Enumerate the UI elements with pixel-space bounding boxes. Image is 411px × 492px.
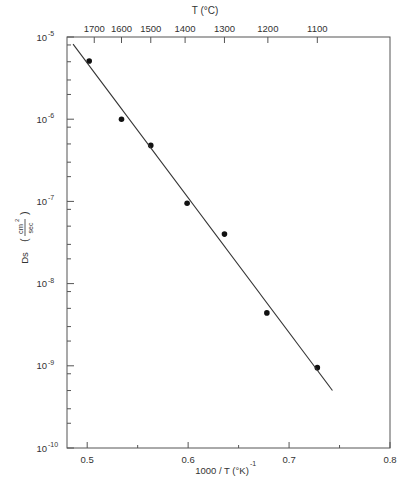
- x-tick-label: 0.8: [383, 454, 396, 465]
- plot-frame: [67, 37, 390, 448]
- plot-axes: 0.50.60.70.81700160015001400130012001100…: [36, 23, 396, 465]
- top-tick-label: 1500: [140, 23, 161, 34]
- svg-text:Ds: Ds: [19, 252, 30, 264]
- y-tick-label: 10: [36, 278, 47, 289]
- svg-text:): ): [18, 211, 30, 215]
- x-axis-title: 1000 / T (°K) -1: [195, 460, 256, 476]
- y-tick-exponent: -6: [48, 112, 54, 119]
- x-tick-label: 0.7: [282, 454, 295, 465]
- data-point: [222, 231, 228, 237]
- x-tick-label: 0.6: [182, 454, 195, 465]
- y-tick-exponent: -7: [48, 194, 54, 201]
- y-tick-exponent: -10: [48, 441, 58, 448]
- svg-text:2: 2: [14, 218, 20, 222]
- top-tick-label: 1700: [84, 23, 105, 34]
- diffusion-arrhenius-chart: 0.50.60.70.81700160015001400130012001100…: [0, 0, 411, 492]
- y-tick-label: 10: [36, 196, 47, 207]
- top-tick-label: 1300: [214, 23, 235, 34]
- y-axis-title: Ds ( cm 2 sec ): [14, 211, 34, 263]
- data-point: [119, 116, 125, 122]
- data-point: [264, 310, 270, 316]
- top-axis-title: T (°C): [192, 5, 219, 16]
- svg-text:1000 / T (°K): 1000 / T (°K): [195, 465, 249, 476]
- top-tick-label: 1200: [257, 23, 278, 34]
- y-tick-exponent: -8: [48, 277, 54, 284]
- y-tick-exponent: -9: [48, 359, 54, 366]
- fit-line: [73, 44, 332, 390]
- svg-text:(: (: [18, 238, 30, 242]
- y-tick-label: 10: [36, 114, 47, 125]
- svg-text:cm: cm: [16, 224, 25, 234]
- plot-series: [73, 44, 332, 390]
- y-tick-label: 10: [36, 360, 47, 371]
- y-tick-label: 10: [36, 443, 47, 454]
- svg-text:sec: sec: [27, 222, 34, 233]
- top-tick-label: 1100: [307, 23, 327, 34]
- svg-text:-1: -1: [250, 460, 256, 467]
- data-point: [184, 200, 190, 206]
- top-tick-label: 1600: [111, 23, 132, 34]
- y-tick-label: 10: [36, 32, 47, 43]
- y-tick-exponent: -5: [48, 30, 54, 37]
- x-tick-label: 0.5: [81, 454, 94, 465]
- top-tick-label: 1400: [175, 23, 196, 34]
